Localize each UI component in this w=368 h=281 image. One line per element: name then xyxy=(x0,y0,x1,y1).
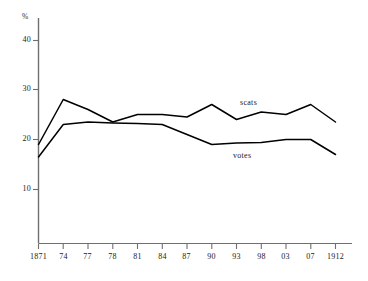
x-axis-ticks xyxy=(39,244,336,250)
y-axis-unit-label: % xyxy=(22,13,28,21)
line-chart-plot xyxy=(0,0,368,281)
series-label-scats: scats xyxy=(240,99,257,107)
y-axis-ticks xyxy=(33,41,39,190)
y-tick-label-40: 40 xyxy=(12,36,31,44)
y-tick-label-20: 20 xyxy=(12,135,31,143)
chart-figure: % 40 30 20 10 1871 74 77 78 81 84 87 90 … xyxy=(0,0,368,281)
series-line-votes xyxy=(39,122,336,157)
y-tick-label-30: 30 xyxy=(12,85,31,93)
y-tick-label-10: 10 xyxy=(12,185,31,193)
x-tick-label-1912: 1912 xyxy=(317,253,354,261)
series-label-votes: votes xyxy=(233,152,251,160)
